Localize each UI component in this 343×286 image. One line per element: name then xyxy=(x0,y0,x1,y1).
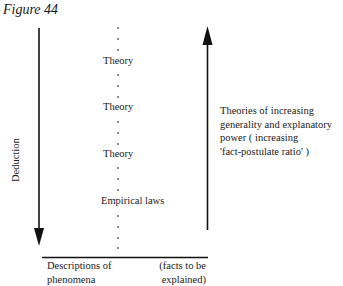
annotation-line: generality and explanatory xyxy=(220,118,343,132)
level-label-theory-2: Theory xyxy=(103,101,133,112)
deduction-label: Deduction xyxy=(10,92,21,182)
level-label-theory-1: Theory xyxy=(103,55,133,66)
annotation-line: power ( increasing xyxy=(220,131,343,145)
level-label-empirical-laws: Empirical laws xyxy=(101,195,164,206)
baseline-right-label: (facts to be explained) xyxy=(150,259,206,286)
baseline-left-label: Descriptions of phenomena xyxy=(47,259,111,286)
down-arrow-icon xyxy=(34,28,44,246)
annotation-line: Theories of increasing xyxy=(220,104,343,118)
right-annotation: Theories of increasing generality and ex… xyxy=(220,104,343,158)
up-arrow-icon xyxy=(203,26,213,230)
level-label-theory-3: Theory xyxy=(103,148,133,159)
annotation-line: 'fact-postulate ratio' ) xyxy=(220,145,343,159)
